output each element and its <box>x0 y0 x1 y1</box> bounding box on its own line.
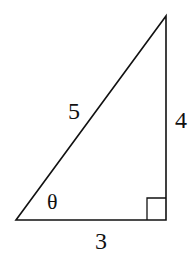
vertical-leg-label: 4 <box>175 107 187 133</box>
triangle-outline <box>16 16 166 220</box>
horizontal-leg-label: 3 <box>95 228 107 254</box>
angle-theta-label: θ <box>47 189 58 214</box>
hypotenuse-label: 5 <box>68 98 80 124</box>
right-angle-marker <box>147 198 166 220</box>
right-triangle-diagram: 5 4 3 θ <box>0 0 195 261</box>
